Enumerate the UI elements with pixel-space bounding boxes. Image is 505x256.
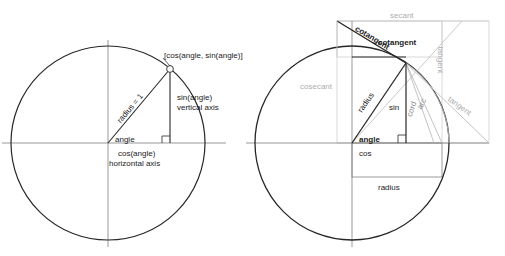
left-angle-label: angle — [115, 135, 135, 144]
right-angle-label: angle — [359, 135, 380, 144]
right-cosecant-label: cosecant — [300, 82, 333, 91]
right-tangent-vertical-label: tangent — [436, 47, 445, 74]
trig-diagram-figure: [cos(angle, sin(angle)] radius = 1 sin(a… — [0, 0, 505, 256]
left-point-marker — [167, 66, 174, 73]
left-cosine-label-line1: cos(angle) — [118, 149, 156, 158]
right-radius-bottom-label: radius — [378, 183, 400, 192]
left-sine-label-line2: vertical axis — [177, 103, 219, 112]
figure-background — [0, 0, 505, 256]
left-point-label: [cos(angle, sin(angle)] — [164, 51, 243, 60]
left-cosine-label-line2: horizontal axis — [109, 159, 160, 168]
right-cotangent-flat-label: cotangent — [378, 38, 417, 47]
right-sin-label: sin — [389, 103, 399, 112]
right-cos-label: cos — [359, 149, 371, 158]
right-secant-label: secant — [390, 11, 414, 20]
left-sine-label-line1: sin(angle) — [177, 93, 212, 102]
